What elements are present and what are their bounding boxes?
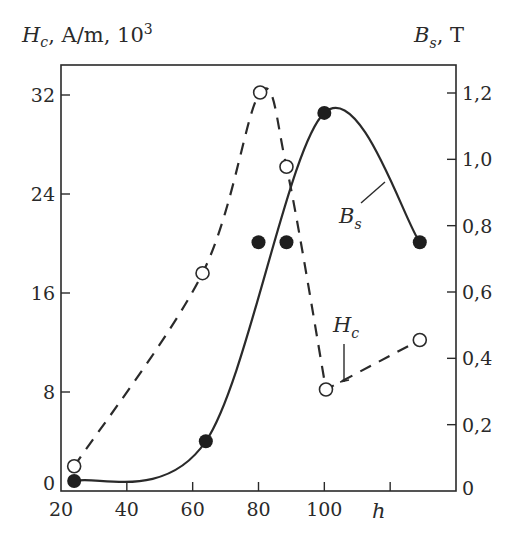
y-left-tick-label: 8: [43, 381, 55, 403]
plot-frame: [61, 65, 456, 491]
series-label-bs: Bs: [338, 204, 362, 232]
x-tick-label: 20: [49, 498, 73, 520]
right-axis-title-units: , T: [437, 23, 464, 47]
left-axis-title-superscript: 3: [144, 21, 153, 37]
y-right-tick-label: 1,2: [462, 82, 492, 104]
y-left-tick-label: 16: [31, 282, 55, 304]
chart: 204060801000816243200,20,40,60,81,01,2 H…: [0, 0, 520, 547]
y-left-tick-label: 24: [31, 183, 55, 205]
data-point-hc: [413, 334, 426, 347]
x-axis-title: h: [372, 499, 386, 523]
data-point-hc: [319, 383, 332, 396]
x-tick-label: 60: [181, 498, 205, 520]
series-line-bs: [74, 108, 420, 482]
right-axis-title-subscript: s: [429, 35, 436, 51]
data-point-bs: [317, 106, 331, 120]
y-right-tick-label: 1,0: [462, 148, 492, 170]
y-right-tick-label: 0,6: [462, 281, 492, 303]
y-right-tick-label: 0,8: [462, 215, 492, 237]
y-right-tick-label: 0,2: [462, 414, 492, 436]
right-axis-title: Bs, T: [413, 23, 464, 51]
left-axis-title-symbol: H: [21, 23, 41, 47]
x-tick-label: 40: [115, 498, 139, 520]
x-tick-label: 80: [246, 498, 270, 520]
series-label-hc: Hc: [332, 313, 359, 341]
data-point-hc: [254, 86, 267, 99]
left-axis-title-subscript: c: [40, 34, 48, 50]
y-left-tick-label: 0: [43, 472, 55, 494]
left-axis-title-units: , A/m, 10: [48, 23, 144, 47]
y-left-tick-label: 32: [31, 84, 55, 106]
data-point-bs: [252, 235, 266, 249]
series-line-hc: [74, 88, 420, 466]
data-point-bs: [199, 434, 213, 448]
right-axis-title-symbol: B: [413, 23, 429, 47]
data-point-hc: [280, 160, 293, 173]
x-tick-label: 100: [306, 498, 342, 520]
data-point-hc: [68, 460, 81, 473]
series-label-bs-leader: [361, 182, 385, 203]
left-axis-title: Hc, A/m, 103: [21, 21, 153, 50]
y-right-tick-label: 0: [462, 477, 474, 499]
y-right-tick-label: 0,4: [462, 347, 492, 369]
data-point-bs: [279, 235, 293, 249]
data-point-bs: [413, 235, 427, 249]
data-point-hc: [196, 267, 209, 280]
data-point-bs: [67, 474, 81, 488]
